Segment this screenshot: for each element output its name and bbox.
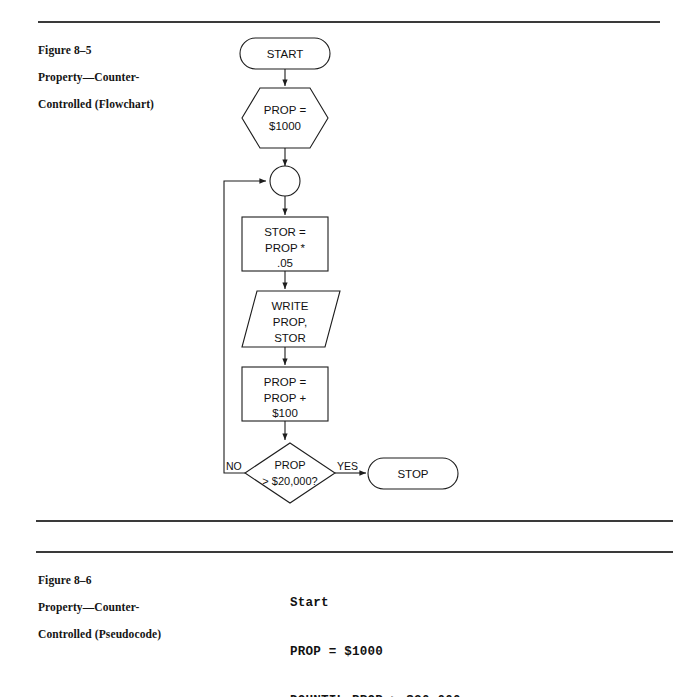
node-stop-label: STOP (397, 468, 428, 480)
node-output-label-line-2: PROP, (273, 316, 307, 328)
node-start-label: START (267, 48, 304, 60)
node-init-label-line-2: $1000 (269, 120, 301, 132)
node-compute-label-line-1: STOR = (264, 226, 306, 238)
node-compute-label-line-3: .05 (277, 257, 293, 269)
rule-figure-86-start (36, 551, 673, 553)
node-decision-label-line-1: PROP (274, 459, 305, 471)
pseudocode-line-2: PROP = $1000 (290, 644, 461, 660)
node-output-label-line-3: STOR (274, 332, 306, 344)
rule-top (38, 21, 660, 23)
node-decision-label-line-2: > $20,000? (262, 475, 317, 487)
pseudocode-line-1: Start (290, 595, 461, 611)
node-increment: PROP = PROP + $100 (242, 367, 328, 421)
figure-86-caption-line-1: Figure 8–6 (38, 574, 233, 588)
figure-86-caption: Figure 8–6 Property—Counter- Controlled … (38, 560, 233, 655)
node-init: PROP = $1000 (242, 88, 328, 148)
node-stop: STOP (368, 458, 458, 489)
flowchart-canvas: START PROP = $1000 STOR = PROP (180, 28, 480, 518)
figure-86-pseudocode: Start PROP = $1000 DOUNTIL PROP > $20,00… (290, 562, 461, 697)
figure-page: Figure 8–5 Property—Counter- Controlled … (0, 0, 673, 697)
figure-86-caption-line-2: Property—Counter- (38, 601, 233, 615)
node-increment-label-line-2: PROP + (264, 392, 307, 404)
node-output-label-line-1: WRITE (271, 300, 308, 312)
figure-86-caption-line-3: Controlled (Pseudocode) (38, 628, 233, 642)
node-increment-label-line-3: $100 (272, 407, 298, 419)
node-compute-label-line-2: PROP * (265, 242, 306, 254)
node-junction (270, 166, 300, 196)
node-start: START (240, 38, 330, 69)
pseudocode-line-3: DOUNTIL PROP > $20,000 (290, 693, 461, 697)
node-init-label-line-1: PROP = (264, 104, 307, 116)
figure-85-flowchart: START PROP = $1000 STOR = PROP (180, 28, 480, 518)
node-decision: PROP > $20,000? (245, 443, 335, 503)
branch-label-no: NO (226, 460, 242, 472)
node-increment-label-line-1: PROP = (264, 376, 307, 388)
node-output: WRITE PROP, STOR (242, 291, 340, 347)
rule-figure-85-end (36, 520, 673, 522)
branch-label-yes: YES (337, 460, 358, 472)
node-compute: STOR = PROP * .05 (242, 217, 328, 271)
